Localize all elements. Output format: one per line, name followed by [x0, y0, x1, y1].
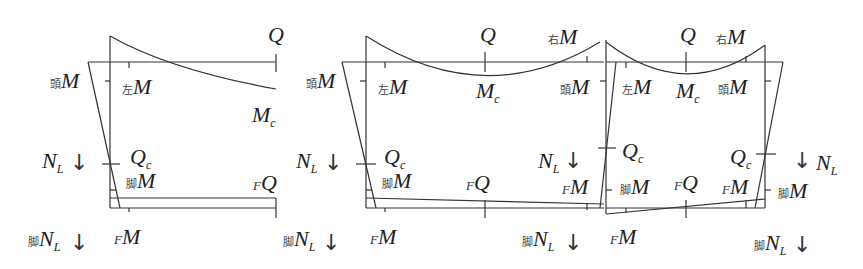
label-Qc-3a: Qc — [622, 140, 643, 165]
down-arrow-icon: ↓ — [324, 152, 342, 174]
panel-1-lines — [88, 36, 276, 218]
label-right-M-2: 右M — [548, 26, 577, 48]
label-NL-3: NL — [816, 152, 837, 177]
label-FM-2b: FM — [562, 176, 588, 198]
label-left-M-2: 左M — [378, 76, 407, 98]
label-foot-NL-1b: 脚NL — [283, 228, 315, 253]
down-arrow-icon: ↓ — [793, 234, 811, 256]
label-Qc-3b: Qc — [730, 146, 751, 171]
label-right-M-3: 右M — [716, 26, 745, 48]
label-NL-2b: NL — [538, 150, 559, 175]
label-foot-M-3b: 脚M — [778, 180, 807, 202]
label-FQ-2: FQ — [466, 172, 490, 194]
label-foot-NL-1: 脚NL — [28, 228, 60, 253]
label-foot-NL-2: 脚NL — [522, 228, 554, 253]
label-FM-2: FM — [370, 226, 396, 248]
label-head-M-1: 頭M — [50, 70, 79, 92]
label-FM-3: FM — [610, 226, 636, 248]
label-foot-NL-3: 脚NL — [754, 232, 786, 257]
label-Q-top-1: Q — [268, 24, 284, 46]
label-Mc-1: Mc — [252, 104, 276, 129]
down-arrow-icon: ↓ — [564, 150, 582, 172]
label-head-M-2: 頭M — [306, 70, 335, 92]
label-FM-3b: FM — [722, 176, 748, 198]
label-Q-top-2: Q — [480, 24, 496, 46]
label-head-M-2b: 頭M — [560, 76, 589, 98]
label-Q-top-3: Q — [680, 24, 696, 46]
down-arrow-icon: ↓ — [793, 150, 811, 172]
down-arrow-icon: ↓ — [70, 152, 88, 174]
label-foot-M-1: 脚M — [126, 170, 155, 192]
label-FM-1: FM — [114, 226, 140, 248]
label-NL-1: NL — [42, 150, 63, 175]
label-foot-M-3a: 脚M — [620, 176, 649, 198]
label-foot-M-2: 脚M — [382, 170, 411, 192]
label-NL-2: NL — [296, 150, 317, 175]
label-FQ-3: FQ — [674, 172, 698, 194]
down-arrow-icon: ↓ — [564, 232, 582, 254]
label-left-M-1: 左M — [122, 76, 151, 98]
label-Mc-2: Mc — [476, 80, 500, 105]
label-head-M-3: 頭M — [718, 76, 747, 98]
label-Mc-3: Mc — [676, 80, 700, 105]
label-left-M-3: 左M — [622, 76, 651, 98]
label-FQ-1: FQ — [253, 172, 277, 194]
down-arrow-icon: ↓ — [322, 232, 340, 254]
down-arrow-icon: ↓ — [70, 232, 88, 254]
